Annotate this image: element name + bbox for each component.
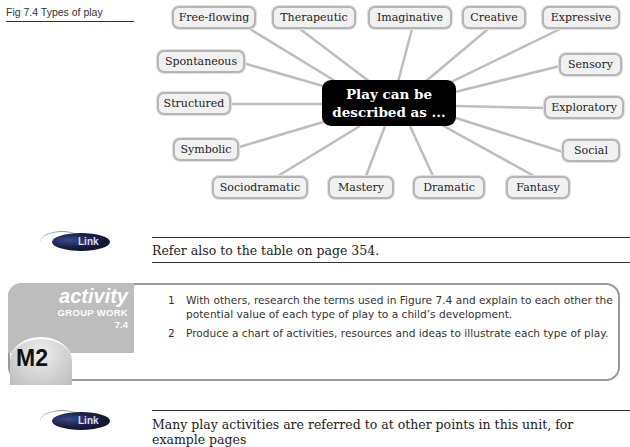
link-badge: Link xyxy=(40,231,112,253)
node-imaginative: Imaginative xyxy=(368,6,452,29)
link2-top-rule xyxy=(152,410,630,411)
node-spontaneous: Spontaneous xyxy=(157,50,245,73)
item-number: 2 xyxy=(168,326,175,340)
grade-label: M2 xyxy=(16,345,48,372)
link1-text: Refer also to the table on page 354. xyxy=(152,243,379,258)
link-badge-label: Link xyxy=(78,415,99,426)
node-symbolic: Symbolic xyxy=(173,138,239,161)
node-mastery: Mastery xyxy=(328,176,394,199)
node-exploratory: Exploratory xyxy=(544,96,624,119)
activity-type: GROUP WORK xyxy=(58,307,128,318)
node-free-flowing: Free-flowing xyxy=(172,6,256,29)
activity-list: 1 With others, research the terms used i… xyxy=(168,293,618,345)
center-line-1: Play can be xyxy=(322,85,456,103)
item-text: Produce a chart of activities, resources… xyxy=(186,327,608,339)
center-line-2: described as ... xyxy=(322,103,456,121)
activity-item: 1 With others, research the terms used i… xyxy=(168,293,618,321)
node-expressive: Expressive xyxy=(542,6,620,29)
node-dramatic: Dramatic xyxy=(413,176,485,199)
link-badge-label: Link xyxy=(78,236,99,247)
node-structured: Structured xyxy=(157,92,231,115)
node-social: Social xyxy=(562,139,620,162)
item-number: 1 xyxy=(168,293,175,307)
link2-text: Many play activities are referred to at … xyxy=(152,417,630,447)
mind-map-center: Play can be described as ... xyxy=(322,80,456,126)
activity-title: activity xyxy=(59,285,128,308)
link1-bottom-rule xyxy=(152,262,630,263)
item-text: With others, research the terms used in … xyxy=(186,294,613,320)
node-sensory: Sensory xyxy=(559,53,622,76)
node-creative: Creative xyxy=(462,6,526,29)
node-therapeutic: Therapeutic xyxy=(272,6,356,29)
grade-badge: M2 xyxy=(10,337,72,385)
node-sociodramatic: Sociodramatic xyxy=(212,176,308,199)
link-badge: Link xyxy=(40,410,112,432)
node-fantasy: Fantasy xyxy=(506,176,570,199)
activity-item: 2 Produce a chart of activities, resourc… xyxy=(168,326,618,340)
activity-number: 7.4 xyxy=(115,319,128,330)
link1-top-rule xyxy=(152,237,630,238)
